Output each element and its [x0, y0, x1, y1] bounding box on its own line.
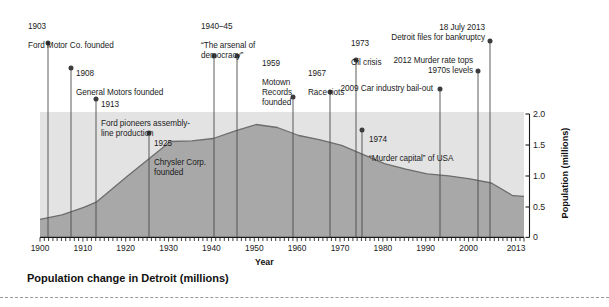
xtick-1940: 1940 — [202, 243, 221, 253]
annotation-1974-text: “Murder capital” of USA — [369, 154, 453, 164]
xtick-1920: 1920 — [116, 243, 135, 253]
ytick-1-0: 1.0 — [533, 171, 545, 181]
xtick-2000: 2000 — [459, 243, 478, 253]
annotation-1940-45: 1940–45 “The arsenal of democracy” — [201, 12, 255, 71]
x-axis-minor-ticks — [40, 237, 524, 241]
annotation-1925-text: Chrysler Corp. founded — [154, 158, 206, 178]
annotation-1974: 1974 “Murder capital” of USA — [369, 125, 453, 174]
xtick-2013: 2013 — [507, 243, 526, 253]
annotation-1903-year: 1903 — [28, 22, 114, 32]
marker-dot-2012 — [476, 69, 481, 74]
figure-caption: Population change in Detroit (millions) — [27, 272, 229, 284]
ytick-2-0: 2.0 — [533, 109, 545, 119]
marker-dot-1908 — [69, 66, 74, 71]
xtick-1910: 1910 — [74, 243, 93, 253]
marker-dot-2013 — [488, 39, 493, 44]
annotation-1940-45-year: 1940–45 — [201, 22, 255, 32]
xtick-1970: 1970 — [331, 243, 350, 253]
marker-dot-2009 — [438, 87, 443, 92]
annotation-1903: 1903 Ford Motor Co. founded — [28, 12, 114, 61]
annotation-2013-text: 18 July 2013 Detroit files for bankruptc… — [330, 23, 485, 43]
chart-figure: 1903 Ford Motor Co. founded 1908 General… — [0, 0, 609, 307]
ytick-0: 0 — [533, 232, 538, 242]
y-axis-title: Population (millions) — [560, 108, 570, 238]
annotation-2012-text: 2012 Murder rate tops 1970s levels — [315, 56, 473, 76]
annotation-1925: 1925 Chrysler Corp. founded — [154, 129, 206, 188]
xtick-1960: 1960 — [288, 243, 307, 253]
xtick-1900: 1900 — [31, 243, 50, 253]
x-axis-title: Year — [255, 257, 274, 267]
xtick-1990: 1990 — [416, 243, 435, 253]
x-axis — [40, 237, 524, 241]
xtick-1950: 1950 — [245, 243, 264, 253]
ytick-0-5: 0.5 — [533, 202, 545, 212]
annotation-1959-year: 1959 — [262, 59, 292, 69]
ytick-1-5: 1.5 — [533, 140, 545, 150]
annotation-2009-text: 2009 Car industry bail-out — [275, 84, 433, 94]
annotation-1974-year: 1974 — [369, 135, 453, 145]
dashed-divider — [0, 297, 609, 298]
xtick-1930: 1930 — [159, 243, 178, 253]
annotation-1913-year: 1913 — [101, 100, 190, 110]
annotation-1903-text: Ford Motor Co. founded — [28, 41, 114, 51]
annotation-2013: 18 July 2013 Detroit files for bankruptc… — [330, 13, 485, 52]
y-axis — [526, 114, 530, 237]
annotation-1925-year: 1925 — [154, 139, 206, 149]
annotation-1940-45-text: “The arsenal of democracy” — [201, 41, 255, 61]
xtick-1980: 1980 — [374, 243, 393, 253]
annotation-1908-year: 1908 — [76, 69, 163, 79]
